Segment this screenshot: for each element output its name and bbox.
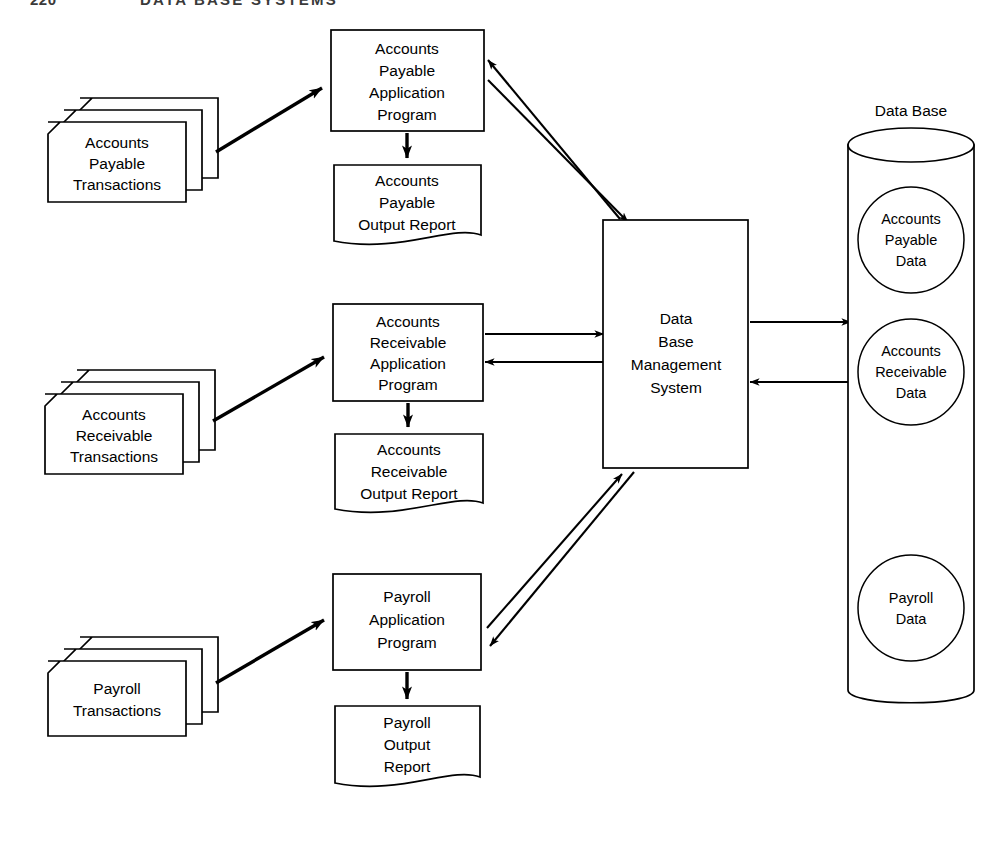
ap-report-line-2: Payable — [379, 194, 435, 211]
pr-program-box: Payroll Application Program — [333, 574, 481, 670]
ar-report-line-2: Receivable — [371, 463, 448, 480]
dbms-line-1: Data — [660, 310, 693, 327]
connection-ar-trans-to-program — [213, 357, 324, 421]
diagram-page: 220 DATA BASE SYSTEMS Accounts Payable T… — [0, 0, 1000, 841]
ar-report-line-1: Accounts — [377, 441, 441, 458]
ap-transactions-line-2: Payable — [89, 155, 145, 172]
pr-report-document: Payroll Output Report — [335, 706, 480, 786]
ar-transactions-line-2: Receivable — [76, 427, 153, 444]
ar-program-line-1: Accounts — [376, 313, 440, 330]
pr-report-line-2: Output — [384, 736, 431, 753]
ar-transactions-line-3: Transactions — [70, 448, 158, 465]
ar-report-line-3: Output Report — [360, 485, 458, 502]
pr-program-line-2: Application — [369, 611, 445, 628]
ar-data-line-3: Data — [896, 385, 928, 401]
ap-transactions-line-3: Transactions — [73, 176, 161, 193]
ar-program-line-3: Application — [370, 355, 446, 372]
ap-program-line-4: Program — [377, 106, 436, 123]
ap-program-line-3: Application — [369, 84, 445, 101]
ap-data-line-2: Payable — [885, 232, 937, 248]
dbms-line-2: Base — [658, 333, 693, 350]
connection-dbms-to-pr-program — [490, 472, 634, 646]
list-item: Accounts Payable Transactions Accounts P… — [48, 30, 628, 244]
pr-data-line-2: Data — [896, 611, 928, 627]
ap-program-line-1: Accounts — [375, 40, 439, 57]
connection-ap-program-to-dbms — [488, 80, 628, 222]
dbms-line-4: System — [650, 379, 702, 396]
ap-program-line-2: Payable — [379, 62, 435, 79]
pr-report-line-1: Payroll — [383, 714, 430, 731]
pr-data-line-1: Payroll — [889, 590, 933, 606]
pr-transactions-line-1: Payroll — [93, 680, 140, 697]
list-item: Payroll Transactions Payroll Application… — [48, 472, 634, 786]
ap-data-line-3: Data — [896, 253, 928, 269]
ap-report-line-3: Output Report — [358, 216, 456, 233]
ap-program-box: Accounts Payable Application Program — [331, 30, 484, 131]
ar-report-document: Accounts Receivable Output Report — [335, 434, 483, 512]
ap-report-document: Accounts Payable Output Report — [334, 165, 481, 244]
pr-transactions-line-2: Transactions — [73, 702, 161, 719]
ap-transactions-line-1: Accounts — [85, 134, 149, 151]
ar-transactions-line-1: Accounts — [82, 406, 146, 423]
pr-program-line-1: Payroll — [383, 588, 430, 605]
ar-program-line-2: Receivable — [370, 334, 447, 351]
dbms-box: Data Base Management System — [603, 220, 748, 468]
database-cylinder: Data Base Accounts Payable Data Accounts… — [848, 102, 974, 703]
connection-pr-program-to-dbms — [487, 474, 622, 628]
connection-pr-trans-to-program — [216, 620, 324, 683]
database-caption: Data Base — [875, 102, 947, 119]
ar-data-line-1: Accounts — [881, 343, 941, 359]
ar-transactions-stack: Accounts Receivable Transactions — [45, 370, 215, 474]
ar-program-line-4: Program — [378, 376, 437, 393]
ap-transactions-stack: Accounts Payable Transactions — [48, 98, 218, 202]
ar-program-box: Accounts Receivable Application Program — [333, 304, 483, 401]
dbms-line-3: Management — [631, 356, 722, 373]
ap-report-line-1: Accounts — [375, 172, 439, 189]
connection-ap-trans-to-program — [216, 88, 322, 152]
ap-data-line-1: Accounts — [881, 211, 941, 227]
ar-data-line-2: Receivable — [875, 364, 947, 380]
list-item: Accounts Receivable Transactions Account… — [45, 304, 604, 512]
pr-report-line-3: Report — [384, 758, 431, 775]
pr-transactions-stack: Payroll Transactions — [48, 637, 218, 736]
pr-program-line-3: Program — [377, 634, 436, 651]
dbms-architecture-diagram: Accounts Payable Transactions Accounts P… — [0, 0, 1000, 841]
